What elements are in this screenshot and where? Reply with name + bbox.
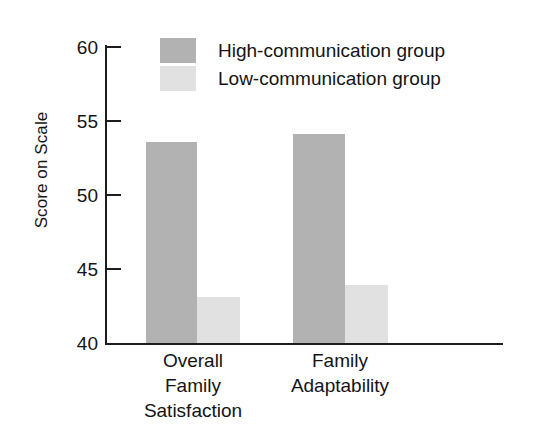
- legend-item-low-communication: Low-communication group: [160, 64, 445, 92]
- legend-label-high: High-communication group: [218, 41, 445, 60]
- bar-overall-family-satisfaction-low-communication: [197, 297, 240, 343]
- x-category-label-2: Family Adaptability: [265, 348, 415, 398]
- x-category-label-2-line2: Adaptability: [265, 373, 415, 398]
- legend-swatch-icon-low: [160, 66, 196, 91]
- bar-overall-family-satisfaction-high-communication: [146, 142, 197, 343]
- x-category-label-1: Overall Family Satisfaction: [118, 348, 268, 423]
- bar-family-adaptability-high-communication: [293, 134, 345, 343]
- legend-item-high-communication: High-communication group: [160, 36, 445, 64]
- x-axis-category-labels: Overall Family Satisfaction Family Adapt…: [0, 348, 534, 448]
- x-category-label-1-line1: Overall: [118, 348, 268, 373]
- legend: High-communication group Low-communicati…: [160, 36, 445, 92]
- x-category-label-1-line3: Satisfaction: [118, 398, 268, 423]
- legend-swatch-icon-high: [160, 38, 196, 63]
- bar-chart: Score on Scale 60 55 50 45 40 High-commu…: [0, 0, 534, 448]
- bar-family-adaptability-low-communication: [345, 285, 388, 343]
- legend-label-low: Low-communication group: [218, 69, 441, 88]
- x-category-label-1-line2: Family: [118, 373, 268, 398]
- x-category-label-2-line1: Family: [265, 348, 415, 373]
